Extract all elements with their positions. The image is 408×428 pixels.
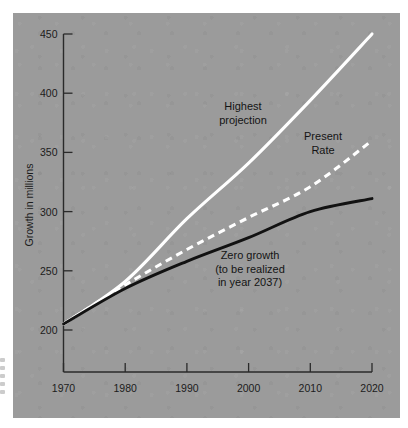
x-tick-label: 2000 xyxy=(237,382,261,394)
annotation-present: PresentRate xyxy=(304,130,342,156)
line-chart: 200250300350400450 197019801990200020102… xyxy=(0,0,408,428)
chart-annotations: HighestprojectionPresentRateZero growth(… xyxy=(215,100,342,288)
x-tick-label: 2020 xyxy=(360,382,384,394)
series-line-zero-growth xyxy=(64,199,373,325)
x-tick-label: 1970 xyxy=(52,382,76,394)
y-tick-label: 350 xyxy=(40,146,58,158)
y-tick-label: 300 xyxy=(40,206,58,218)
y-axis-title: Growth in millions xyxy=(23,164,35,247)
x-tick-label: 2010 xyxy=(299,382,323,394)
y-tick-label: 400 xyxy=(40,87,58,99)
y-tick-label: 250 xyxy=(40,265,58,277)
y-tick-label: 200 xyxy=(40,324,58,336)
y-tick-label: 450 xyxy=(40,28,58,40)
x-axis-ticks: 197019801990200020102020 xyxy=(52,363,384,394)
annotation-zero: Zero growth(to be realizedin year 2037) xyxy=(215,249,285,288)
x-tick-label: 1990 xyxy=(175,382,199,394)
y-axis-ticks: 200250300350400450 xyxy=(40,28,73,336)
x-tick-label: 1980 xyxy=(114,382,138,394)
annotation-highest: Highestprojection xyxy=(219,100,267,126)
